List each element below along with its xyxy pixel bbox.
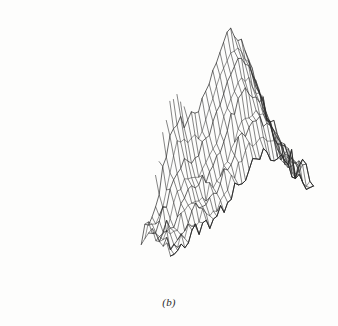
figure-caption: (b)	[0, 296, 338, 308]
surface-wireframe-plot	[0, 0, 338, 300]
figure-container: (b)	[0, 0, 338, 326]
